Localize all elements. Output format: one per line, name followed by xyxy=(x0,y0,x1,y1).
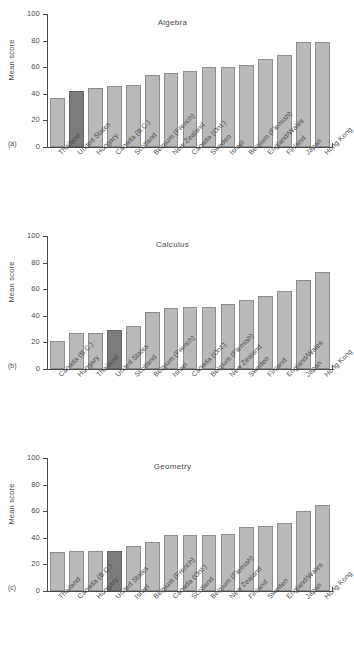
bar-group-geometry xyxy=(48,458,332,591)
bar-algebra-hong-kong xyxy=(315,42,330,147)
bar-slot xyxy=(67,458,86,591)
y-tick-label-algebra-60: 60 xyxy=(0,63,40,71)
bar-calculus-england-wales xyxy=(277,291,292,369)
y-tick-label-geometry-40: 40 xyxy=(0,534,40,542)
bar-algebra-belgium-flemish xyxy=(239,65,254,147)
bar-slot xyxy=(48,14,67,147)
chart-panel-algebra: Algebra(a)100806040200Mean scoreThailand… xyxy=(0,0,345,222)
y-tick-label-calculus-80: 80 xyxy=(0,259,40,267)
y-tick-label-geometry-80: 80 xyxy=(0,481,40,489)
bar-slot xyxy=(48,458,67,591)
y-tick-label-geometry-20: 20 xyxy=(0,560,40,568)
y-tick-label-algebra-0: 0 xyxy=(0,143,40,151)
y-tick-label-calculus-0: 0 xyxy=(0,365,40,373)
y-tick-label-algebra-40: 40 xyxy=(0,90,40,98)
y-tick-calculus-0 xyxy=(43,369,48,370)
bar-slot xyxy=(275,458,294,591)
y-tick-label-algebra-100: 100 xyxy=(0,10,40,18)
y-tick-label-calculus-40: 40 xyxy=(0,312,40,320)
bar-slot xyxy=(313,14,332,147)
bar-slot xyxy=(48,236,67,369)
chart-panel-geometry: Geometry(c)100806040200Mean scoreThailan… xyxy=(0,444,345,665)
y-axis-label-algebra: Mean score xyxy=(8,15,16,105)
y-tick-algebra-0 xyxy=(43,147,48,148)
y-tick-label-geometry-0: 0 xyxy=(0,587,40,595)
y-axis-label-calculus: Mean score xyxy=(8,237,16,327)
bar-geometry-hong-kong xyxy=(315,505,330,591)
y-tick-label-calculus-100: 100 xyxy=(0,232,40,240)
y-tick-geometry-0 xyxy=(43,591,48,592)
bar-calculus-canada-b-c xyxy=(50,341,65,369)
chart-panel-calculus: Calculus(b)100806040200Mean scoreCanada … xyxy=(0,222,345,444)
bar-algebra-japan xyxy=(296,42,311,147)
y-tick-label-algebra-80: 80 xyxy=(0,37,40,45)
y-tick-label-algebra-20: 20 xyxy=(0,116,40,124)
bar-slot xyxy=(237,14,256,147)
bar-slot xyxy=(105,236,124,369)
x-axis-labels-algebra: ThailandUnited StatesHungaryCanada (B.C.… xyxy=(48,149,332,219)
y-tick-label-calculus-60: 60 xyxy=(0,285,40,293)
bar-slot xyxy=(275,236,294,369)
x-axis-labels-geometry: ThailandCanada (B.C.)HungaryUnited State… xyxy=(48,593,332,663)
bar-slot xyxy=(67,14,86,147)
bar-geometry-thailand xyxy=(50,552,65,591)
y-tick-label-geometry-60: 60 xyxy=(0,507,40,515)
y-axis-label-geometry: Mean score xyxy=(8,459,16,549)
y-tick-label-calculus-20: 20 xyxy=(0,338,40,346)
bar-calculus-hong-kong xyxy=(315,272,330,369)
x-axis-labels-calculus: Canada (B.C.)HungaryThailandUnited State… xyxy=(48,371,332,441)
bar-algebra-thailand xyxy=(50,98,65,147)
y-tick-label-geometry-100: 100 xyxy=(0,454,40,462)
